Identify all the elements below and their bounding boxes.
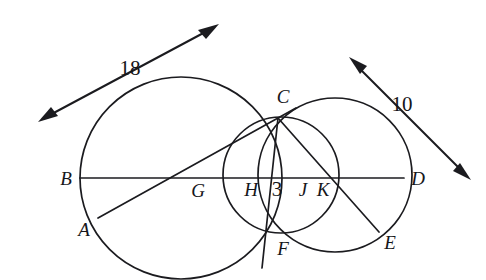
measure-arrow-10-head-start xyxy=(349,57,367,74)
secant-line-AC xyxy=(98,108,296,218)
small-lens-circle xyxy=(223,117,339,233)
point-label-C: C xyxy=(277,87,290,106)
measure-arrow-18-head-end xyxy=(198,24,219,39)
point-label-D: D xyxy=(411,169,425,188)
measure-label-18: 18 xyxy=(120,58,141,79)
point-label-B: B xyxy=(60,169,72,188)
point-label-J: J xyxy=(299,180,307,199)
measure-label-10: 10 xyxy=(392,94,413,115)
point-label-A: A xyxy=(78,220,90,239)
point-label-H: H xyxy=(244,180,258,199)
point-label-G: G xyxy=(191,181,205,200)
chord-line-CE xyxy=(278,118,379,232)
point-label-K: K xyxy=(317,180,330,199)
point-label-F: F xyxy=(277,239,289,258)
measure-arrow-18-head-start xyxy=(38,107,58,122)
figure-canvas xyxy=(0,0,486,280)
segment-measure-HJ: 3 xyxy=(272,179,283,200)
point-label-E: E xyxy=(384,233,396,252)
geometry-figure: A B C D E F G H J K 3 18 10 xyxy=(0,0,486,280)
